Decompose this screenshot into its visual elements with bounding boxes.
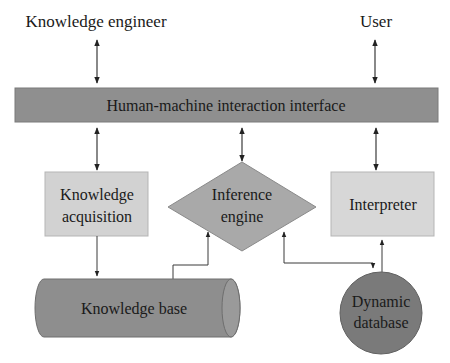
knowledge-engineer-label: Knowledge engineer	[25, 12, 166, 31]
arrow-inference-dynamic-database	[284, 232, 373, 268]
knowledge-acquisition-label-line2: acquisition	[62, 208, 132, 226]
arrow-knowledge-base-inference	[173, 232, 208, 279]
dynamic-database-circle: Dynamic database	[340, 272, 422, 354]
interpreter-label: Interpreter	[349, 196, 417, 214]
interpreter-box: Interpreter	[331, 172, 434, 236]
dynamic-database-label-line2: database	[353, 314, 408, 331]
user-label: User	[360, 12, 392, 31]
knowledge-base-label: Knowledge base	[81, 300, 187, 318]
knowledge-acquisition-label-line1: Knowledge	[60, 186, 134, 204]
inference-engine-label-line1: Inference	[212, 186, 272, 203]
knowledge-base-cylinder: Knowledge base	[35, 279, 240, 337]
expert-system-diagram: Knowledge engineer User Human-machine in…	[0, 0, 450, 363]
inference-engine-diamond: Inference engine	[168, 162, 316, 251]
inference-engine-label-line2: engine	[221, 208, 264, 226]
dynamic-database-label-line1: Dynamic	[352, 293, 411, 311]
interface-label: Human-machine interaction interface	[107, 97, 346, 114]
interface-bar: Human-machine interaction interface	[15, 88, 438, 122]
knowledge-acquisition-box: Knowledge acquisition	[45, 172, 148, 236]
